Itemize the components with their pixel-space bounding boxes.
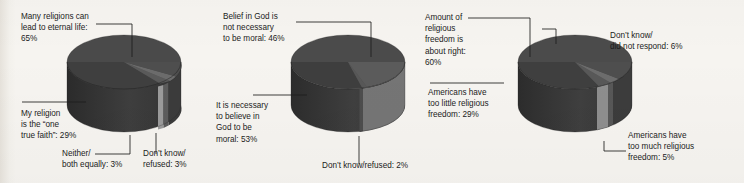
label-dont-know-refused: Don’t know/refused: 2% — [322, 160, 462, 171]
label-too-much-freedom: Americans have too much religious freedo… — [628, 130, 738, 164]
label-dont-know-did-not-respond: Don’t know/ did not respond: 6% — [610, 30, 730, 52]
leader-line-dont-know — [542, 29, 556, 44]
figure-canvas: Many religions can lead to eternal life:… — [0, 0, 744, 183]
label-amount-about-right: Amount of religious freedom is about rig… — [425, 12, 487, 68]
leader-line-too-much — [604, 141, 626, 151]
label-one-true-faith: My religion is the “one true faith”: 29% — [21, 108, 101, 142]
label-dont-know-refused: Don’t know/ refused: 3% — [143, 148, 213, 170]
label-neither-both-equally: Neither/ both equally: 3% — [62, 148, 140, 170]
pie-chart-religious-freedom: Amount of religious freedom is about rig… — [420, 0, 744, 183]
label-belief-not-necessary: Belief in God is not necessary to be mor… — [223, 11, 315, 45]
pie-chart-eternal-life: Many religions can lead to eternal life:… — [0, 0, 248, 183]
label-it-is-necessary: It is necessary to believe in God to be … — [216, 100, 300, 145]
label-too-little-freedom: Americans have too little religious free… — [428, 87, 514, 121]
label-many-religions: Many religions can lead to eternal life:… — [21, 11, 101, 45]
leader-line-eternal-life — [96, 24, 132, 57]
